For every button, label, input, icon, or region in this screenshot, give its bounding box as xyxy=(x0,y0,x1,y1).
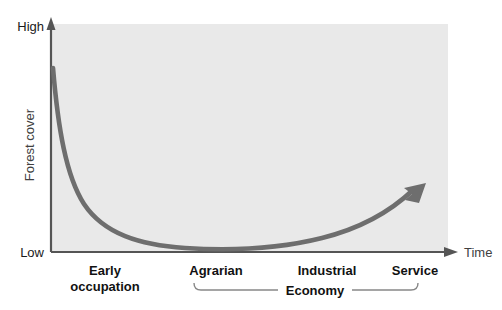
x-axis-arrow-icon xyxy=(444,247,458,257)
y-axis-arrow-icon xyxy=(47,17,56,30)
x-axis-title: Time xyxy=(464,245,492,260)
y-axis-min-label: Low xyxy=(20,245,44,260)
plot-area-background xyxy=(51,24,448,252)
economy-brace-left xyxy=(194,283,278,290)
forest-transition-chart: High Low Forest cover Time Early occupat… xyxy=(0,0,502,310)
economy-brace-right xyxy=(352,283,418,290)
category-label-early-occupation-line1: Early xyxy=(89,263,122,278)
y-axis-max-label: High xyxy=(17,19,44,34)
chart-canvas: High Low Forest cover Time Early occupat… xyxy=(0,0,502,310)
category-label-service: Service xyxy=(392,263,438,278)
y-axis-title: Forest cover xyxy=(22,108,37,181)
economy-group-label: Economy xyxy=(286,283,345,298)
category-label-industrial: Industrial xyxy=(298,263,357,278)
category-label-agrarian: Agrarian xyxy=(189,263,243,278)
category-label-early-occupation-line2: occupation xyxy=(70,279,139,294)
